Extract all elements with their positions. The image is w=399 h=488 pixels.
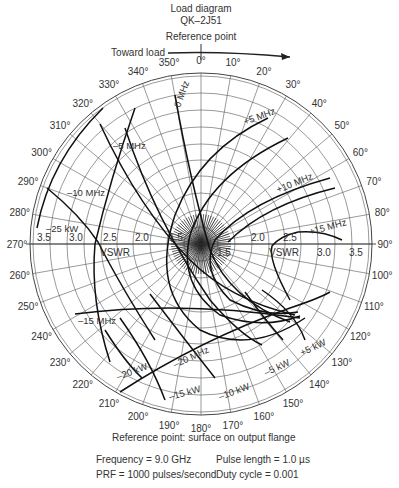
angle-tick-label: 270° <box>7 239 28 250</box>
angle-tick-label: 130° <box>332 357 353 368</box>
vswr-axis-label-right: VSWR <box>269 247 299 258</box>
angle-tick-label: 90° <box>377 239 392 250</box>
vswr-tick-label-right: 3.0 <box>317 247 331 258</box>
contour-label: –10 MHz <box>67 187 105 198</box>
contour-label: –15 MHz <box>78 315 116 326</box>
duty-cycle-spec: Duty cycle = 0.001 <box>216 469 299 480</box>
pulse-length-spec: Pulse length = 1.0 µs <box>216 454 310 465</box>
angle-tick-label: 190° <box>159 420 180 431</box>
angle-tick-label: 50° <box>334 120 349 131</box>
angle-tick-label: 260° <box>9 270 30 281</box>
contour-curve <box>210 178 330 314</box>
angle-tick-label: 330° <box>99 79 120 90</box>
contour-label: +5 kW <box>298 336 327 357</box>
vswr-axis-label-left: VSWR <box>100 247 130 258</box>
angle-tick-label: 300° <box>31 147 52 158</box>
angle-tick-label: 200° <box>128 411 149 422</box>
contour-label: –15 kW <box>168 383 202 402</box>
angle-tick-label: 70° <box>366 176 381 187</box>
angle-tick-label: 80° <box>375 207 390 218</box>
contour-curve <box>100 124 295 315</box>
angle-tick-label: 60° <box>353 147 368 158</box>
vswr-tick-label-left: 2.0 <box>135 232 149 243</box>
angle-tick-label: 220° <box>72 379 93 390</box>
angle-tick-label: 170° <box>223 420 244 431</box>
angle-tick-label: 310° <box>50 120 71 131</box>
vswr-tick-label-left: 1.5 <box>169 232 183 243</box>
frequency-spec: Frequency = 9.0 GHz <box>96 454 191 465</box>
contour-label: –10 kW <box>217 381 251 402</box>
chart-title-line2: QK–2J51 <box>180 15 222 26</box>
angle-tick-label: 350° <box>159 57 180 68</box>
angle-tick-label: 340° <box>128 66 149 77</box>
contour-curve <box>120 292 330 392</box>
angle-tick-label: 100° <box>372 270 393 281</box>
arrow-head-icon <box>281 53 290 60</box>
vswr-tick-label-right: 2.0 <box>251 232 265 243</box>
contour-label: –5 MHz <box>113 140 146 151</box>
angle-tick-label: 10° <box>225 57 240 68</box>
vswr-tick-label-right: 1.5 <box>217 247 231 258</box>
prf-spec: PRF = 1000 pulses/second <box>96 469 216 480</box>
angle-tick-label: 290° <box>18 176 39 187</box>
reference-note: Reference point: surface on output flang… <box>112 432 295 443</box>
vswr-tick-label-right: 2.5 <box>283 232 297 243</box>
toward-load-label: Toward load <box>111 47 165 58</box>
load-diagram-chart: Load diagram QK–2J51 Reference point Tow… <box>0 0 399 488</box>
angle-tick-label: 230° <box>50 357 71 368</box>
angle-tick-label: 30° <box>285 79 300 90</box>
vswr-tick-label-right: 3.5 <box>349 247 363 258</box>
angle-tick-label: 280° <box>9 207 30 218</box>
angle-tick-label: 240° <box>31 331 52 342</box>
angle-tick-label: 160° <box>254 411 275 422</box>
angle-tick-label: 120° <box>350 331 371 342</box>
angle-tick-label: 140° <box>309 379 330 390</box>
angle-tick-label: 320° <box>72 98 93 109</box>
contour-label: –25 kW <box>46 223 78 234</box>
angle-tick-label: 40° <box>312 98 327 109</box>
angle-tick-label: 150° <box>283 398 304 409</box>
chart-title-line1: Load diagram <box>170 3 231 14</box>
angle-tick-label: 20° <box>256 66 271 77</box>
polar-grid <box>26 73 376 415</box>
angle-tick-label: 0° <box>196 55 206 66</box>
angle-tick-label: 110° <box>364 301 384 312</box>
angle-tick-label: 210° <box>99 398 120 409</box>
angle-tick-label: 250° <box>18 301 39 312</box>
vswr-tick-label-left: 2.5 <box>103 232 117 243</box>
reference-point-label: Reference point <box>166 31 237 42</box>
